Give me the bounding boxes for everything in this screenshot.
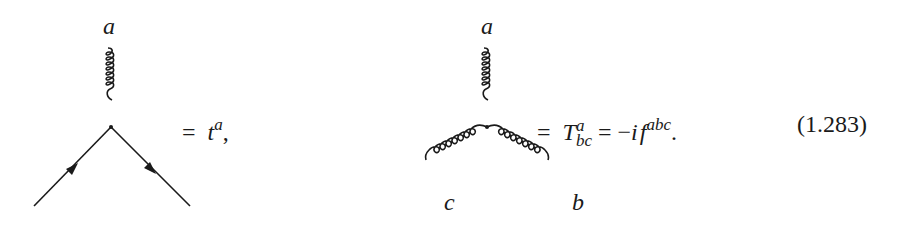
vertex-dot — [109, 125, 113, 129]
adjoint-subscript: bc — [576, 133, 592, 148]
equals-sign: = — [537, 119, 551, 145]
gluon-label-a: a — [481, 14, 493, 38]
adjoint-generator-symbol: T — [563, 119, 576, 145]
comma: , — [223, 119, 229, 145]
gluon-line-top — [106, 48, 114, 100]
minus-sign: − — [618, 119, 632, 145]
generator-superscript: a — [214, 115, 223, 134]
arrow-icon — [66, 163, 78, 175]
equals-sign: = — [182, 119, 196, 145]
structure-constant-superscript: abc — [646, 115, 671, 134]
quark-gluon-vertex-diagram — [34, 48, 190, 206]
gluon-line-top — [482, 48, 490, 100]
vertex-dot — [485, 125, 489, 129]
gluon-label-b: b — [572, 190, 584, 214]
right-vertex-rule: = Tabc = −i fabc. — [537, 116, 677, 148]
gluon-label-a: a — [103, 14, 115, 38]
gluon-line-left — [426, 125, 487, 160]
equation-number: (1.283) — [797, 112, 867, 136]
equals-sign-2: = — [598, 119, 612, 145]
adjoint-indices: abc — [576, 118, 592, 148]
left-vertex-rule: = ta, — [182, 116, 229, 144]
gluon-label-c: c — [444, 190, 455, 214]
arrow-icon — [144, 162, 156, 174]
three-gluon-vertex-diagram — [426, 48, 549, 160]
period: . — [671, 119, 677, 145]
imaginary-unit: i — [631, 119, 638, 145]
